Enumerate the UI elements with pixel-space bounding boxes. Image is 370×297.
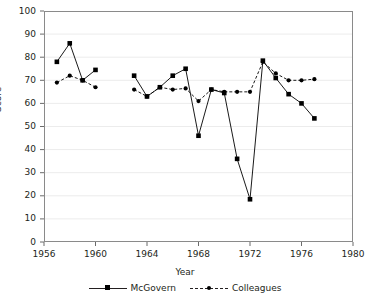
x-axis-tick-label: 1972: [230, 250, 270, 259]
chart-container: Score Year McGovern Colleagues 010203040…: [0, 0, 370, 297]
legend-label-mcgovern: McGovern: [131, 284, 176, 293]
y-axis-tick-label: 0: [6, 238, 36, 247]
y-axis-tick-label: 30: [6, 168, 36, 177]
legend-item-mcgovern: McGovern: [89, 284, 176, 293]
y-axis-tick-label: 60: [6, 99, 36, 108]
x-axis-tick-label: 1968: [179, 250, 219, 259]
x-axis-tick-label: 1976: [282, 250, 322, 259]
y-axis-tick-label: 40: [6, 145, 36, 154]
x-axis-tick-label: 1956: [24, 250, 64, 259]
x-axis-tick-label: 1964: [127, 250, 167, 259]
x-axis-title: Year: [0, 268, 370, 277]
plot-area: [44, 11, 353, 242]
legend-label-colleagues: Colleagues: [232, 284, 282, 293]
y-axis-tick-label: 10: [6, 214, 36, 223]
legend-swatch-solid-square-icon: [89, 284, 127, 293]
y-axis-tick-label: 80: [6, 53, 36, 62]
y-axis-title: Score: [0, 87, 3, 112]
x-axis-tick-label: 1960: [76, 250, 116, 259]
y-axis-tick-label: 100: [6, 7, 36, 16]
x-axis-tick-label: 1980: [333, 250, 370, 259]
y-axis-tick-label: 70: [6, 76, 36, 85]
y-axis-tick-label: 50: [6, 122, 36, 131]
legend-item-colleagues: Colleagues: [190, 284, 282, 293]
y-axis-tick-label: 90: [6, 30, 36, 39]
y-axis-tick-label: 20: [6, 191, 36, 200]
chart-legend: McGovern Colleagues: [0, 284, 370, 293]
legend-swatch-dashed-circle-icon: [190, 284, 228, 293]
